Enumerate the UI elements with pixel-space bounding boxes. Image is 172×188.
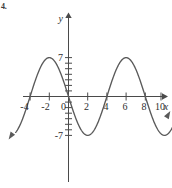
- y-axis-label: y: [58, 13, 64, 24]
- curve-left-arrowhead: [9, 131, 16, 139]
- x-tick-label-4: 4: [104, 101, 109, 112]
- x-tick-label-0: 0: [61, 101, 66, 112]
- y-axis-arrowhead: [65, 13, 71, 19]
- coordinate-plane-svg: -4 -2 0 2 4 6 8 10 7 -7 y x: [0, 0, 172, 188]
- problem-number-label: 4.: [1, 2, 7, 11]
- x-axis-arrowhead: [162, 93, 168, 99]
- curve-right-arrowhead: [164, 111, 170, 119]
- graph-figure: 4.: [0, 0, 172, 188]
- x-tick-label--4: -4: [20, 101, 28, 112]
- x-tick-label-2: 2: [84, 101, 89, 112]
- y-tick-label--7: -7: [55, 130, 63, 141]
- x-tick-label-8: 8: [142, 101, 147, 112]
- y-tick-label-7: 7: [58, 52, 63, 63]
- x-tick-label-6: 6: [123, 101, 128, 112]
- x-tick-label--2: -2: [41, 101, 49, 112]
- x-axis-label: x: [163, 101, 169, 112]
